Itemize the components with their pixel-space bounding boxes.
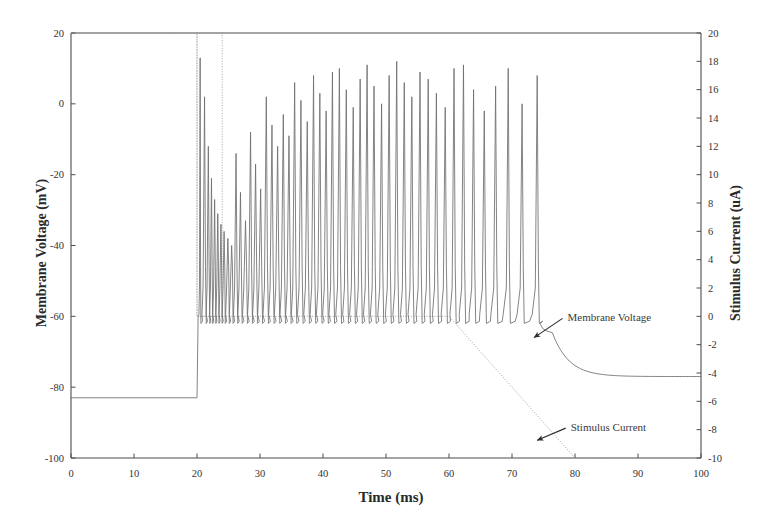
x-axis-title: Time (ms) [271, 489, 511, 506]
x-tick-label: 10 [129, 468, 140, 479]
stimulus-current-path [71, 33, 701, 458]
x-tick-label: 50 [381, 468, 392, 479]
y2-tick-label: -10 [708, 453, 722, 464]
membrane-voltage-annotation-arrow [534, 318, 563, 337]
x-tick-label: 0 [68, 468, 73, 479]
y-axis-left-title: Membrane Voltage (mV) [34, 153, 50, 353]
y2-tick-label: -6 [708, 396, 717, 407]
y2-tick-label: 8 [708, 198, 713, 209]
y-tick-label: -20 [50, 169, 64, 180]
y-tick-label: -80 [50, 382, 64, 393]
y2-tick-label: 16 [708, 84, 719, 95]
stimulus-current-trace [71, 33, 701, 458]
x-tick-label: 40 [318, 468, 329, 479]
y2-tick-label: 10 [708, 169, 719, 180]
x-tick-label: 100 [693, 468, 709, 479]
x-axis-ticks: 0102030405060708090100 [68, 454, 709, 480]
membrane-voltage-path [71, 58, 701, 398]
x-tick-label: 60 [444, 468, 455, 479]
y-tick-label: -60 [50, 311, 64, 322]
y-tick-label: 0 [59, 98, 64, 109]
membrane-voltage-trace [71, 58, 701, 398]
stimulus-current-annotation-arrow [537, 428, 566, 440]
y-tick-label: -40 [50, 240, 64, 251]
membrane-voltage-annotation-label: Membrane Voltage [568, 311, 652, 323]
x-tick-label: 20 [192, 468, 203, 479]
chart-figure: 0102030405060708090100 200-20-40-60-80-1… [0, 0, 773, 527]
y-axis-right-ticks: 20181614121086420-2-4-6-8-10 [697, 28, 723, 464]
y2-tick-label: 14 [708, 113, 719, 124]
y2-tick-label: -4 [708, 368, 717, 379]
y2-tick-label: 2 [708, 283, 713, 294]
stimulus-current-annotation-label: Stimulus Current [571, 421, 646, 433]
y2-tick-label: 12 [708, 141, 719, 152]
x-tick-label: 80 [570, 468, 581, 479]
y-tick-label: -100 [45, 453, 64, 464]
y2-tick-label: 18 [708, 56, 719, 67]
x-tick-label: 30 [255, 468, 266, 479]
y2-tick-label: -2 [708, 339, 717, 350]
x-tick-label: 70 [507, 468, 518, 479]
y2-tick-label: 0 [708, 311, 713, 322]
y2-tick-label: -8 [708, 424, 717, 435]
y-axis-right-title: Stimulus Current (uA) [728, 153, 744, 353]
y-tick-label: 20 [54, 28, 65, 39]
y2-tick-label: 6 [708, 226, 713, 237]
y2-tick-label: 4 [708, 254, 714, 265]
y2-tick-label: 20 [708, 28, 719, 39]
plot-frame [71, 33, 701, 458]
x-tick-label: 90 [633, 468, 644, 479]
plot-canvas: 0102030405060708090100 200-20-40-60-80-1… [0, 0, 773, 527]
